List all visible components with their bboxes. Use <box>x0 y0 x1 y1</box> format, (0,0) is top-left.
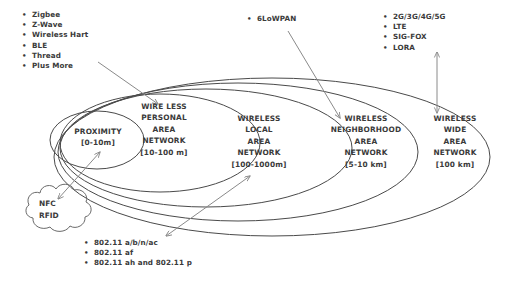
bullet-icon: • <box>84 248 94 258</box>
label-line: NETWORK <box>317 147 415 158</box>
list-item-label: 802.11 a/b/n/ac <box>94 238 158 248</box>
label-line: PERSONAL <box>123 112 205 123</box>
list-item-label: 802.11 ah and 802.11 p <box>94 258 192 268</box>
label-wpan: WIRE LESS PERSONAL AREA NETWORK [10-100 … <box>123 101 205 158</box>
list-item-label: SIG-FOX <box>393 32 427 42</box>
bullet-icon: • <box>22 61 32 71</box>
label-line: RFID <box>39 210 87 222</box>
label-line: WIRELESS <box>218 113 300 124</box>
list-item-label: 6LoWPAN <box>257 14 296 24</box>
list-item: • Zigbee <box>22 10 88 20</box>
list-item-label: BLE <box>32 41 47 51</box>
label-line: [100 km] <box>414 159 496 170</box>
list-item: • 802.11 af <box>84 248 192 258</box>
list-wpan-technologies: • Zigbee • Z-Wave • Wireless Hart • BLE … <box>22 10 88 71</box>
bullet-icon: • <box>383 22 393 32</box>
label-line: NEIGHBORHOOD <box>317 124 415 135</box>
bullet-icon: • <box>383 32 393 42</box>
bullet-icon: • <box>383 12 393 22</box>
bullet-icon: • <box>22 51 32 61</box>
list-item-label: Zigbee <box>32 10 60 20</box>
label-line: WIRELESS <box>414 113 496 124</box>
label-wnan: WIRELESS NEIGHBORHOOD AREA NETWORK [5-10… <box>317 113 415 170</box>
label-line: [10-100 m] <box>123 147 205 158</box>
label-wlan: WIRELESS LOCAL AREA NETWORK [100-1000m] <box>218 113 300 170</box>
list-item: • 2G/3G/4G/5G <box>383 12 446 22</box>
label-line: [100-1000m] <box>218 159 300 170</box>
list-item: • Plus More <box>22 61 88 71</box>
list-wnan-technologies: • 6LoWPAN <box>247 14 296 24</box>
list-item: • 802.11 ah and 802.11 p <box>84 258 192 268</box>
label-line: LOCAL <box>218 124 300 135</box>
list-item: • LTE <box>383 22 446 32</box>
bullet-icon: • <box>383 43 393 53</box>
label-line: NETWORK <box>218 147 300 158</box>
diagram-canvas: • Zigbee • Z-Wave • Wireless Hart • BLE … <box>0 0 509 292</box>
label-line: WIRELESS <box>317 113 415 124</box>
label-line: AREA <box>123 124 205 135</box>
list-item: • LORA <box>383 43 446 53</box>
list-item: • BLE <box>22 41 88 51</box>
label-line: AREA <box>414 136 496 147</box>
label-line: WIRE LESS <box>123 101 205 112</box>
label-line: AREA <box>218 136 300 147</box>
list-item-label: LORA <box>393 43 415 53</box>
list-item-label: Thread <box>32 51 61 61</box>
label-line: NFC <box>39 198 87 210</box>
list-item: • Wireless Hart <box>22 30 88 40</box>
list-item: • SIG-FOX <box>383 32 446 42</box>
bullet-icon: • <box>22 41 32 51</box>
label-line: AREA <box>317 136 415 147</box>
arrow-nfc-rfid-proximity <box>58 152 100 199</box>
bullet-icon: • <box>22 10 32 20</box>
bullet-icon: • <box>22 20 32 30</box>
list-item-label: Z-Wave <box>32 20 62 30</box>
list-item: • 802.11 a/b/n/ac <box>84 238 192 248</box>
label-line: NETWORK <box>414 147 496 158</box>
bullet-icon: • <box>84 258 94 268</box>
bullet-icon: • <box>22 30 32 40</box>
bullet-icon: • <box>247 14 257 24</box>
bullet-icon: • <box>84 238 94 248</box>
label-line: WIDE <box>414 124 496 135</box>
list-wlan-technologies: • 802.11 a/b/n/ac • 802.11 af • 802.11 a… <box>84 238 192 269</box>
list-item-label: 802.11 af <box>94 248 133 258</box>
list-item: • Z-Wave <box>22 20 88 30</box>
label-nfc-rfid: NFC RFID <box>39 198 87 221</box>
list-item: • 6LoWPAN <box>247 14 296 24</box>
list-item-label: Plus More <box>32 61 73 71</box>
list-item: • Thread <box>22 51 88 61</box>
label-line: NETWORK <box>123 135 205 146</box>
label-wwan: WIRELESS WIDE AREA NETWORK [100 km] <box>414 113 496 170</box>
label-line: [5-10 km] <box>317 159 415 170</box>
list-item-label: 2G/3G/4G/5G <box>393 12 446 22</box>
arrow-wnan-technologies <box>288 31 340 118</box>
list-item-label: LTE <box>393 22 407 32</box>
list-item-label: Wireless Hart <box>32 30 88 40</box>
list-wwan-technologies: • 2G/3G/4G/5G • LTE • SIG-FOX • LORA <box>383 12 446 53</box>
